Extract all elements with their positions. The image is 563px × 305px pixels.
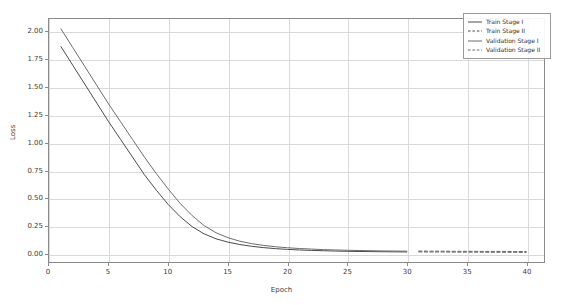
x-tick-label: 40 [523,268,532,276]
x-tick-label: 25 [343,268,352,276]
legend-item-label: Train Stage II [486,27,525,35]
x-tick-mark [108,263,109,266]
x-tick-label: 30 [403,268,412,276]
legend-item: Validation Stage II [466,46,547,55]
y-tick-label: 2.00 [17,27,43,35]
y-tick-label: 0.75 [17,167,43,175]
x-tick-label: 5 [106,268,110,276]
x-tick-mark [48,263,49,266]
x-tick-label: 10 [163,268,172,276]
legend: Train Stage ITrain Stage IIValidation St… [463,13,551,59]
x-tick-mark [347,263,348,266]
legend-item: Train Stage I [466,17,547,26]
legend-item: Train Stage II [466,27,547,36]
legend-item-label: Validation Stage II [486,46,540,54]
series-line [61,29,407,251]
series-line [61,47,407,252]
loss-curve-figure: Loss 0.000.250.500.751.001.251.501.752.0… [0,0,563,305]
y-tick-label: 1.50 [17,83,43,91]
legend-item-label: Validation Stage I [486,37,539,45]
x-tick-mark [467,263,468,266]
y-tick-label: 1.00 [17,139,43,147]
legend-line-swatch-icon [468,27,482,35]
legend-line-swatch-icon [468,37,482,45]
y-tick-label: 0.50 [17,194,43,202]
x-tick-label: 0 [46,268,50,276]
legend-item: Validation Stage I [466,36,547,45]
legend-line-swatch-icon [468,18,482,26]
x-tick-label: 35 [463,268,472,276]
y-axis-label: Loss [9,125,17,140]
x-tick-mark [228,263,229,266]
y-tick-label: 0.00 [17,250,43,258]
y-tick-label: 1.75 [17,55,43,63]
y-tick-label: 1.25 [17,111,43,119]
x-tick-mark [407,263,408,266]
y-tick-label: 0.25 [17,222,43,230]
x-axis-label: Epoch [0,286,563,294]
x-tick-mark [168,263,169,266]
x-tick-mark [527,263,528,266]
legend-line-swatch-icon [468,46,482,54]
legend-item-label: Train Stage I [486,18,523,26]
x-tick-label: 20 [283,268,292,276]
x-tick-label: 15 [223,268,232,276]
x-tick-mark [288,263,289,266]
